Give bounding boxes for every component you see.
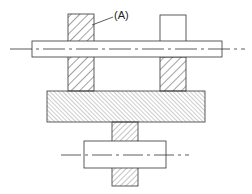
callout-label-a: (A) (114, 9, 129, 21)
mechanical-drawing (0, 0, 252, 194)
lower-shaft (61, 141, 189, 168)
callout-leader-line (92, 17, 113, 25)
base-plate (47, 91, 205, 122)
upper-shaft (10, 41, 245, 57)
